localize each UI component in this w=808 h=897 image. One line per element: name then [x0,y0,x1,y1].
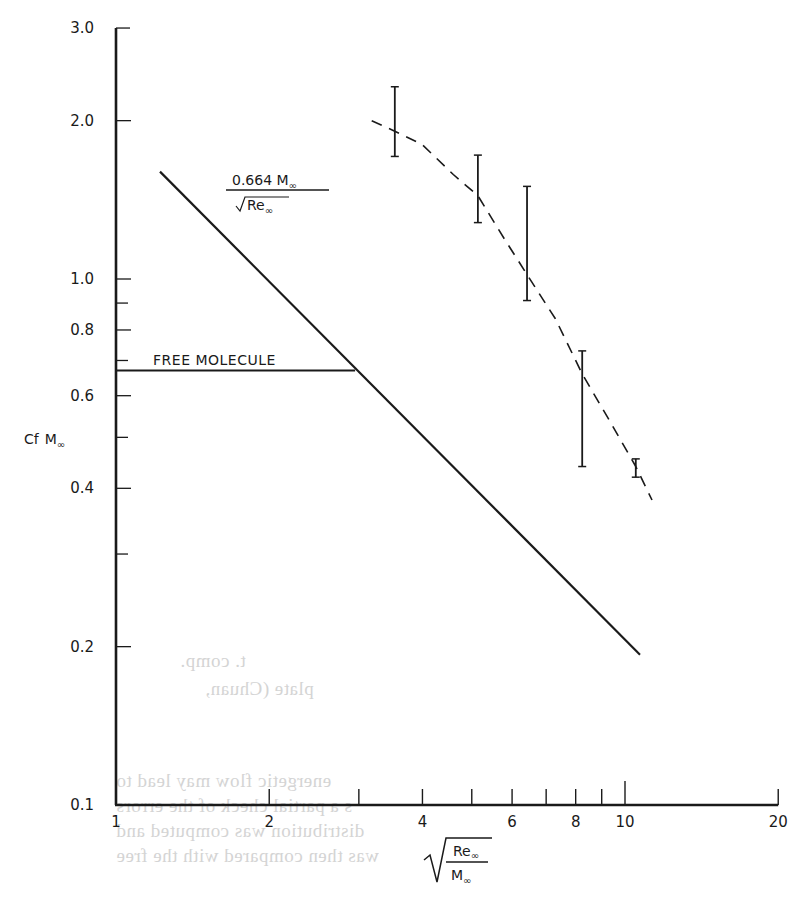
y-axis-ticks: 0.10.20.40.60.81.02.03.0 [70,19,131,814]
y-axis-label: CfM∞ [24,431,65,450]
log-log-chart: 0.10.20.40.60.81.02.03.0 124681020 CfM∞ … [0,0,808,897]
error-bars [391,87,640,477]
x-tick-label: 8 [571,813,581,831]
axes [115,28,778,805]
x-tick-label: 1 [111,813,121,831]
svg-text:M∞: M∞ [451,867,471,886]
x-tick-label: 6 [507,813,517,831]
data-series [116,121,652,655]
free-molecule-label: FREE MOLECULE [153,352,276,368]
x-tick-label: 4 [418,813,428,831]
y-tick-label: 1.0 [70,270,94,288]
series-dashed-trend [372,121,652,500]
x-tick-label: 20 [769,813,788,831]
svg-text:Re∞: Re∞ [247,197,273,216]
error-bar [523,186,531,300]
y-tick-label: 0.1 [70,796,94,814]
error-bar [474,155,482,222]
y-tick-label: 0.2 [70,638,94,656]
x-tick-label: 2 [264,813,274,831]
x-tick-label: 10 [615,813,634,831]
y-tick-label: 0.6 [70,387,94,405]
x-axis-label: Re∞ M∞ [424,838,492,886]
series-line-0 [160,172,640,655]
y-tick-label: 0.8 [70,321,94,339]
y-tick-label: 2.0 [70,112,94,130]
y-tick-label: 0.4 [70,479,94,497]
svg-text:Re∞: Re∞ [453,843,479,861]
svg-text:0.664 M∞: 0.664 M∞ [232,172,297,191]
y-tick-label: 3.0 [70,19,94,37]
error-bar [391,87,399,157]
formula-annotation: 0.664 M∞ Re∞ [226,172,329,216]
